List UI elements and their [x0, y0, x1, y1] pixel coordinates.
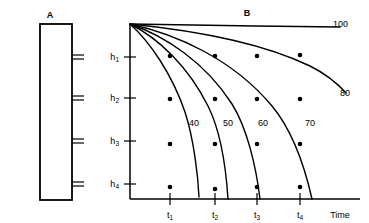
data-point	[213, 187, 218, 192]
x-axis-title: Time	[330, 210, 350, 220]
x-tick-label-t2: t2	[212, 210, 219, 221]
data-point	[298, 142, 303, 147]
y-tick-label-h2: h2	[110, 93, 119, 104]
y-tick-label-h1: h1	[110, 52, 119, 63]
data-point	[168, 142, 173, 147]
panel-a-tick-pair-4	[72, 182, 84, 186]
panel-b-label: B	[244, 8, 251, 18]
data-point	[213, 142, 218, 147]
data-point	[255, 97, 260, 102]
data-point	[298, 185, 303, 190]
curve-100	[130, 24, 340, 27]
panel-a-tick-pair-1	[72, 55, 84, 59]
curve-60	[130, 24, 260, 199]
curve-70	[130, 24, 312, 199]
curve-80	[130, 24, 346, 93]
curve-label-70: 70	[305, 118, 315, 128]
data-point	[213, 54, 218, 59]
curve-40	[130, 24, 199, 197]
panel-a-rectangle	[40, 24, 72, 200]
scientific-figure: A B h1 h2 h3	[0, 0, 369, 223]
curve-50	[130, 24, 228, 199]
x-tick-label-t4: t4	[297, 210, 304, 221]
data-point	[298, 97, 303, 102]
data-point	[213, 97, 218, 102]
x-tick-label-t1: t1	[167, 210, 174, 221]
y-tick-label-h3: h3	[110, 136, 119, 147]
data-point	[298, 53, 303, 58]
panel-a: A	[40, 10, 84, 200]
panel-b: B h1 h2 h3 h4 t1 t2 t3 t4 Time 100	[110, 8, 360, 221]
curve-label-40: 40	[189, 118, 199, 128]
data-point	[168, 185, 173, 190]
data-point	[168, 54, 173, 59]
data-point	[255, 142, 260, 147]
panel-a-tick-pair-3	[72, 139, 84, 143]
curve-label-80: 80	[340, 88, 350, 98]
data-point	[255, 54, 260, 59]
y-tick-label-h4: h4	[110, 179, 119, 190]
panel-a-tick-pair-2	[72, 96, 84, 100]
data-point	[168, 97, 173, 102]
curve-label-50: 50	[223, 118, 233, 128]
x-tick-label-t3: t3	[254, 210, 261, 221]
curve-label-60: 60	[258, 118, 268, 128]
panel-a-label: A	[47, 10, 54, 20]
data-point	[255, 185, 260, 190]
curve-label-100: 100	[333, 19, 348, 29]
